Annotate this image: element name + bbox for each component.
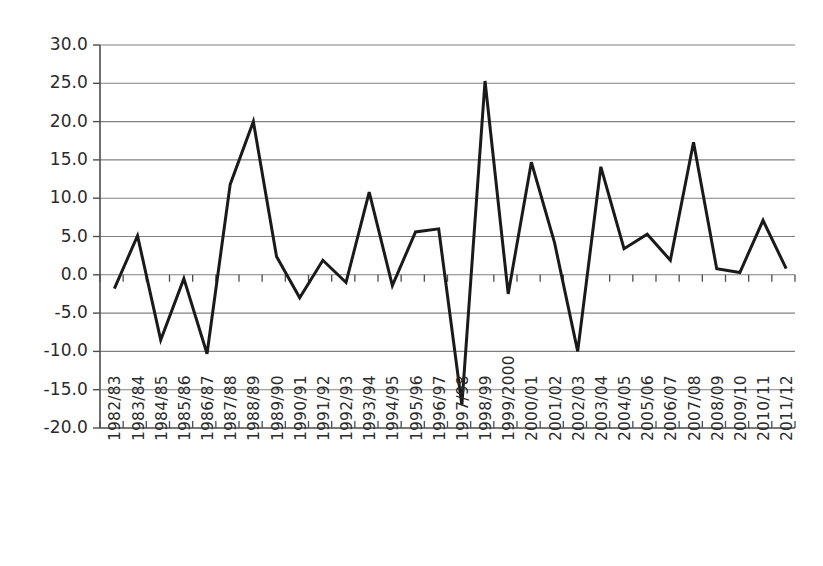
gridlines-group: [100, 45, 795, 390]
y-axis-tick-label: 15.0: [50, 151, 88, 168]
x-axis-tick-label: 2009/10: [734, 375, 750, 441]
x-axis-tick-label: 1996/97: [433, 375, 449, 441]
x-axis-tick-label: 1991/92: [317, 375, 333, 441]
x-axis-tick-label: 1995/96: [410, 375, 426, 441]
y-axis-tick-label: -20.0: [44, 419, 89, 436]
x-axis-tick-label: 1997/98: [456, 375, 472, 441]
x-axis-tick-label: 2006/07: [664, 375, 680, 441]
x-axis-tick-label: 1986/87: [201, 375, 217, 441]
y-axis-tick-label: 5.0: [61, 228, 88, 245]
y-axis-ticks-group: [93, 45, 100, 428]
x-axis-tick-label: 1998/99: [479, 375, 495, 441]
x-axis-tick-label: 1992/93: [340, 375, 356, 441]
y-axis-tick-label: 25.0: [50, 74, 88, 91]
x-axis-tick-label: 2001/02: [549, 375, 565, 441]
x-axis-tick-label: 1994/95: [386, 375, 402, 441]
x-axis-tick-label: 1988/89: [247, 375, 263, 441]
y-axis-tick-label: 20.0: [50, 113, 88, 130]
y-axis-tick-label: 30.0: [50, 36, 88, 53]
x-axis-tick-label: 1985/86: [178, 375, 194, 441]
x-axis-tick-label: 1984/85: [155, 375, 171, 441]
x-axis-tick-label: 1993/94: [363, 375, 379, 441]
y-axis-tick-label: 0.0: [61, 266, 88, 283]
x-axis-tick-label: 1982/83: [108, 375, 124, 441]
y-axis-tick-label: 10.0: [50, 189, 88, 206]
x-axis-tick-label: 2008/09: [711, 375, 727, 441]
x-axis-tick-label: 2011/12: [780, 375, 796, 441]
chart-plot-area: [0, 0, 823, 566]
x-axis-tick-label: 2007/08: [688, 375, 704, 441]
x-axis-tick-label: 1983/84: [132, 375, 148, 441]
x-axis-tick-label: 2003/04: [595, 375, 611, 441]
x-axis-tick-label: 2010/11: [757, 375, 773, 441]
y-axis-tick-label: -5.0: [54, 304, 88, 321]
x-axis-tick-label: 2004/05: [618, 375, 634, 441]
x-axis-tick-label: 2000/01: [525, 375, 541, 441]
x-axis-tick-label: 1999/2000: [502, 355, 518, 441]
x-axis-tick-label: 2005/06: [641, 375, 657, 441]
x-axis-tick-label: 2002/03: [572, 375, 588, 441]
x-axis-tick-label: 1987/88: [224, 375, 240, 441]
y-axis-tick-label: -10.0: [44, 342, 89, 359]
x-axis-tick-label: 1989/90: [271, 375, 287, 441]
data-series-line: [114, 81, 786, 405]
x-axis-tick-label: 1990/91: [294, 375, 310, 441]
line-chart: 30.025.020.015.010.05.00.0-5.0-10.0-15.0…: [0, 0, 823, 566]
y-axis-tick-label: -15.0: [44, 381, 89, 398]
